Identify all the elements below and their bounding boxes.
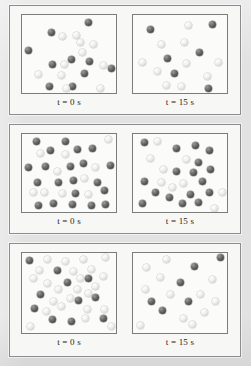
sphere-light (97, 85, 104, 92)
sphere-dark (147, 26, 154, 33)
sphere-light (209, 276, 216, 283)
sphere-light (211, 205, 218, 212)
sphere-dark (50, 200, 57, 207)
sphere-light (36, 267, 43, 274)
sphere-dark (69, 201, 76, 208)
sphere-light (212, 298, 219, 305)
sphere-light (139, 59, 146, 66)
sphere-dark (207, 166, 214, 173)
sphere-light (30, 275, 37, 282)
sphere-dark (55, 179, 62, 186)
sphere-dark (25, 47, 32, 54)
sphere-light (27, 323, 34, 330)
sphere-light (77, 275, 84, 282)
sphere-dark (179, 200, 186, 207)
sphere-dark (75, 297, 82, 304)
sphere-dark (206, 189, 213, 196)
sphere-dark (64, 279, 71, 286)
sphere-dark (72, 190, 79, 197)
sphere-dark (107, 162, 114, 169)
sphere-light (41, 189, 48, 196)
sphere-dark (173, 145, 180, 152)
sphere-light (189, 321, 196, 328)
sphere-light (85, 290, 92, 297)
sphere-light (143, 264, 150, 271)
sphere-dark (85, 19, 92, 26)
sphere-light (58, 72, 65, 79)
particle-diagram-figure: t = 0 st = 15 st = 0 st = 15 st = 0 st =… (0, 0, 251, 366)
sphere-light (219, 189, 226, 196)
panel-1-box-t15-caption: t = 15 s (132, 97, 228, 107)
panel-2: t = 0 st = 15 s (9, 124, 241, 234)
sphere-dark (177, 279, 184, 286)
sphere-light (154, 138, 161, 145)
sphere-light (59, 33, 66, 40)
sphere-dark (68, 318, 75, 325)
sphere-dark (206, 147, 213, 154)
sphere-light (63, 85, 70, 92)
sphere-dark (33, 138, 40, 145)
sphere-light (160, 166, 167, 173)
sphere-light (185, 22, 192, 29)
sphere-dark (69, 83, 76, 90)
sphere-light (180, 315, 187, 322)
sphere-light (80, 256, 87, 263)
panel-1-box-t0-caption: t = 0 s (21, 97, 117, 107)
sphere-light (169, 184, 176, 191)
sphere-light (108, 323, 115, 330)
sphere-dark (152, 189, 159, 196)
sphere-dark (205, 85, 212, 92)
sphere-dark (49, 316, 56, 323)
sphere-dark (31, 305, 38, 312)
sphere-dark (185, 298, 192, 305)
sphere-light (81, 175, 88, 182)
sphere-dark (62, 138, 69, 145)
sphere-dark (48, 29, 55, 36)
sphere-dark (209, 21, 216, 28)
sphere-light (59, 190, 66, 197)
panel-3-box-t0-caption: t = 0 s (21, 337, 117, 347)
panel-3-boxes: t = 0 st = 15 s (10, 244, 240, 356)
sphere-dark (34, 179, 41, 186)
sphere-dark (86, 58, 93, 65)
sphere-dark (35, 202, 42, 209)
sphere-dark (173, 168, 180, 175)
sphere-dark (81, 70, 88, 77)
sphere-dark (159, 307, 166, 314)
sphere-light (197, 291, 204, 298)
sphere-light (54, 168, 61, 175)
sphere-light (158, 41, 165, 48)
panel-2-box-t0 (21, 133, 117, 213)
sphere-dark (46, 83, 53, 90)
sphere-light (147, 155, 154, 162)
sphere-light (201, 309, 208, 316)
sphere-light (92, 283, 99, 290)
sphere-light (37, 150, 44, 157)
sphere-light (67, 295, 74, 302)
sphere-light (70, 268, 77, 275)
sphere-light (183, 156, 190, 163)
sphere-dark (26, 257, 33, 264)
sphere-dark (148, 298, 155, 305)
panel-3: t = 0 st = 15 s (9, 243, 241, 357)
sphere-light (74, 286, 81, 293)
sphere-dark (47, 147, 54, 154)
sphere-light (43, 308, 50, 315)
sphere-light (157, 274, 164, 281)
panel-2-box-t15-caption: t = 15 s (132, 216, 228, 226)
sphere-dark (141, 139, 148, 146)
sphere-dark (101, 187, 108, 194)
sphere-light (167, 291, 174, 298)
sphere-dark (42, 163, 49, 170)
panel-3-box-t15 (132, 252, 228, 334)
sphere-light (178, 83, 185, 90)
sphere-dark (195, 199, 202, 206)
sphere-dark (70, 177, 77, 184)
sphere-light (181, 39, 188, 46)
sphere-dark (80, 160, 87, 167)
sphere-light (100, 273, 107, 280)
sphere-light (100, 62, 107, 69)
panel-3-box-t15-caption: t = 15 s (132, 337, 228, 347)
sphere-dark (25, 164, 32, 171)
sphere-light (44, 256, 51, 263)
